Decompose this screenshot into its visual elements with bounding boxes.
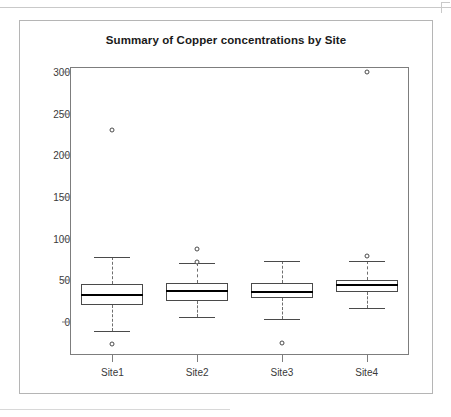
x-axis-tick-label-site1: Site1 [72, 367, 152, 378]
x-axis-tick-mark [367, 355, 368, 362]
x-axis-tick-mark [197, 355, 198, 362]
x-axis-tick-label-site3: Site3 [242, 367, 322, 378]
median-line [336, 284, 398, 286]
boxplot-site4 [70, 67, 409, 355]
whisker-cap-lower [349, 308, 385, 309]
whisker-cap-upper [349, 261, 385, 262]
x-axis-tick-mark [282, 355, 283, 362]
page-corner-mark [441, 2, 450, 13]
outlier-point [364, 254, 369, 259]
whisker-upper [367, 261, 368, 280]
y-axis-tick-mark [62, 72, 69, 73]
x-axis-tick-mark [112, 355, 113, 362]
y-axis-tick-mark [62, 280, 69, 281]
y-axis-tick-mark [62, 155, 69, 156]
y-axis-tick-mark [62, 113, 69, 114]
y-axis-tick-mark [62, 197, 69, 198]
outlier-point [364, 70, 369, 75]
figure-page: Summary of Copper concentrations by Site… [0, 0, 451, 417]
y-axis-tick-mark [62, 322, 69, 323]
plot-data-layer [70, 67, 409, 355]
y-axis-tick-mark [62, 238, 69, 239]
whisker-lower [367, 292, 368, 308]
chart-title: Summary of Copper concentrations by Site [19, 34, 433, 46]
y-axis: 050100150200250300 [0, 0, 70, 417]
x-axis-tick-label-site4: Site4 [327, 367, 407, 378]
x-axis-tick-label-site2: Site2 [157, 367, 237, 378]
